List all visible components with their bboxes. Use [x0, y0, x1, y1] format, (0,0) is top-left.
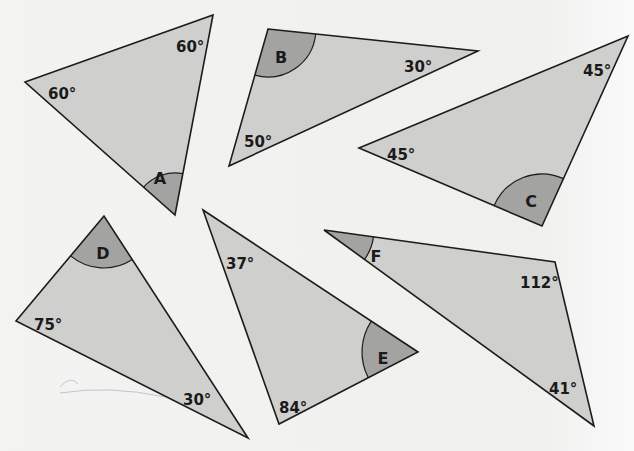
unknown-angle-label: E — [378, 349, 389, 368]
angle-label: 30° — [404, 58, 432, 76]
triangle-angles-diagram: A60°60°B30°50°C45°45°D75°30°E37°84°F112°… — [0, 0, 634, 451]
angle-label: 60° — [48, 85, 76, 103]
angle-label: 50° — [244, 133, 272, 151]
angle-label: 41° — [549, 380, 577, 398]
unknown-angle-label: B — [275, 48, 287, 67]
angle-label: 37° — [226, 255, 254, 273]
angle-label: 84° — [279, 399, 307, 417]
angle-label: 112° — [520, 274, 559, 292]
unknown-angle-label: C — [525, 192, 537, 211]
angle-label: 60° — [176, 38, 204, 56]
unknown-angle-label: A — [154, 169, 167, 188]
unknown-angle-label: D — [96, 244, 109, 263]
angle-label: 45° — [583, 62, 611, 80]
diagram-canvas: A60°60°B30°50°C45°45°D75°30°E37°84°F112°… — [0, 0, 634, 451]
angle-label: 75° — [34, 316, 62, 334]
angle-label: 45° — [387, 146, 415, 164]
unknown-angle-label: F — [371, 247, 382, 266]
angle-label: 30° — [183, 391, 211, 409]
